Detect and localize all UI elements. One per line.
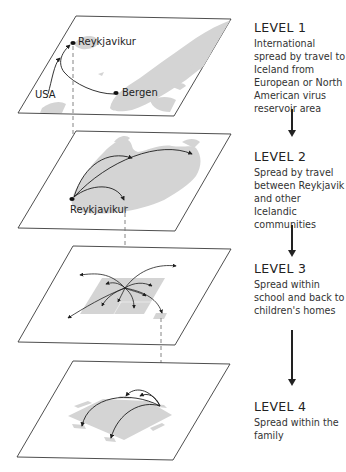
- level-4-title: LEVEL 4: [254, 399, 346, 414]
- level-1-description: International spread by travel to Icelan…: [254, 37, 346, 115]
- level-1-title: LEVEL 1: [254, 20, 346, 35]
- level-4-description: Spread within the family: [254, 416, 346, 442]
- bergen-dot: [113, 91, 118, 95]
- level-3-plane: [18, 246, 231, 345]
- level-4-block: LEVEL 4 Spread within the family: [254, 399, 346, 442]
- label-bergen: Bergen: [122, 87, 158, 98]
- reykjavik-dot: [70, 41, 75, 45]
- level-1-plane: Reykjavikur USA Bergen: [18, 16, 231, 116]
- reykjavik-dot-2: [69, 197, 74, 201]
- level-2-description: Spread by travel between Reykjavik and o…: [254, 166, 346, 231]
- level-2-plane: Reykjavikur: [18, 131, 231, 231]
- label-reykjavikur-1: Reykjavikur: [78, 36, 137, 47]
- level-2-block: LEVEL 2 Spread by travel between Reykjav…: [254, 149, 346, 231]
- level-2-title: LEVEL 2: [254, 149, 346, 164]
- level-4-plane: [17, 361, 230, 460]
- label-reykjavikur-2: Reykjavikur: [70, 204, 129, 215]
- label-usa: USA: [35, 89, 56, 100]
- level-3-block: LEVEL 3 Spread within school and back to…: [254, 261, 346, 317]
- level-1-to-2-arrow: [291, 109, 293, 131]
- level-3-description: Spread within school and back to childre…: [254, 278, 346, 317]
- level-1-block: LEVEL 1 International spread by travel t…: [254, 20, 346, 115]
- level-3-title: LEVEL 3: [254, 261, 346, 276]
- level-2-to-3-arrow: [291, 225, 293, 251]
- level-3-to-4-arrow: [291, 330, 293, 380]
